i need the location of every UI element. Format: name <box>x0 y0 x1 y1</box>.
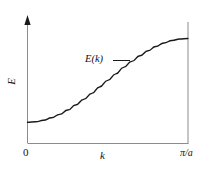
y-axis <box>24 15 30 143</box>
dispersion-curve <box>28 39 188 123</box>
dispersion-figure: 0 k π/a E E(k) <box>0 0 210 172</box>
curve-annotation-label: E(k) <box>85 54 103 65</box>
x-axis-origin-label: 0 <box>23 147 29 158</box>
y-axis-arrowhead-icon <box>24 15 30 25</box>
x-axis-max-label: π/a <box>180 148 193 158</box>
plot-canvas <box>0 0 210 172</box>
x-axis-title: k <box>100 150 105 161</box>
y-axis-title: E <box>6 78 17 85</box>
